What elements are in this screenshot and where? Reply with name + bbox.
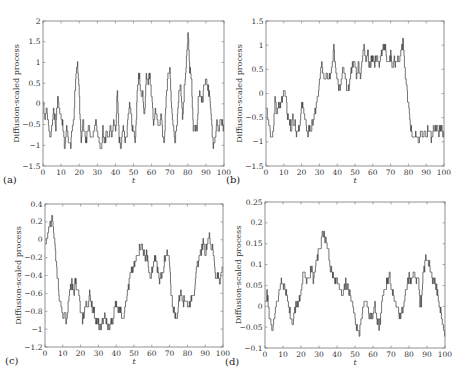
- data-series-line: [266, 38, 444, 142]
- data-series-line: [43, 33, 224, 149]
- y-tick-label: −1: [252, 137, 263, 146]
- x-tick-label: 100: [437, 168, 452, 177]
- x-tick-label: 90: [201, 168, 211, 177]
- y-tick-label: 0: [36, 99, 41, 108]
- y-tick-label: 1.5: [252, 17, 264, 26]
- x-tick-label: 40: [332, 350, 342, 359]
- panel-a: 0102030405060708090100−1.5−1−0.500.511.5…: [3, 17, 231, 186]
- x-tick-label: 30: [315, 168, 325, 177]
- y-tick-label: 0: [38, 235, 43, 244]
- x-tick-label: 90: [421, 168, 431, 177]
- y-tick-label: 0.05: [246, 281, 263, 290]
- x-tick-label: 0: [264, 168, 269, 177]
- x-tick-label: 70: [386, 168, 396, 177]
- y-tick-label: 0.4: [31, 200, 43, 209]
- y-tick-label: 0.15: [246, 239, 263, 248]
- x-tick-label: 40: [111, 168, 121, 177]
- panel-label: (d): [225, 356, 239, 367]
- y-tick-label: 1: [36, 58, 41, 67]
- y-tick-label: 0: [258, 302, 263, 311]
- x-axis-label: t: [353, 358, 357, 367]
- x-tick-label: 60: [147, 168, 157, 177]
- y-tick-label: −1: [29, 141, 40, 150]
- panel-c: 0102030405060708090100−1.2−1−0.8−0.6−0.4…: [5, 200, 230, 367]
- y-tick-label: 1.5: [29, 37, 41, 46]
- x-axis-label: t: [353, 176, 357, 185]
- x-tick-label: 30: [94, 349, 104, 358]
- x-tick-label: 10: [279, 168, 289, 177]
- x-tick-label: 90: [422, 350, 432, 359]
- y-tick-label: −0.6: [24, 289, 42, 298]
- y-tick-label: −1.5: [22, 162, 40, 171]
- x-tick-label: 30: [314, 350, 324, 359]
- x-tick-label: 100: [438, 350, 453, 359]
- x-tick-label: 0: [41, 168, 46, 177]
- x-tick-label: 80: [404, 350, 414, 359]
- x-tick-label: 10: [278, 350, 288, 359]
- x-tick-label: 60: [368, 168, 378, 177]
- y-tick-label: −0.8: [24, 307, 42, 316]
- figure: 0102030405060708090100−1.5−1−0.500.511.5…: [0, 0, 465, 380]
- y-tick-label: 0.2: [31, 217, 43, 226]
- panel-label: (a): [3, 174, 17, 185]
- x-axis-label: t: [132, 176, 136, 185]
- x-tick-label: 80: [404, 168, 414, 177]
- x-tick-label: 70: [386, 350, 396, 359]
- y-tick-label: 0.1: [251, 260, 263, 269]
- axes-frame: [43, 21, 224, 166]
- y-tick-label: −1: [31, 325, 42, 334]
- x-tick-label: 0: [263, 350, 268, 359]
- x-axis-label: t: [132, 357, 136, 366]
- x-tick-label: 20: [76, 349, 86, 358]
- y-tick-label: −0.4: [24, 271, 42, 280]
- y-tick-label: 0.5: [29, 79, 41, 88]
- x-tick-label: 30: [93, 168, 103, 177]
- panel-b: 0102030405060708090100−1.5−1−0.500.511.5…: [226, 17, 451, 186]
- data-series-line: [45, 215, 223, 329]
- x-tick-label: 20: [297, 168, 307, 177]
- x-tick-label: 20: [296, 350, 306, 359]
- y-tick-label: 0.25: [246, 198, 263, 207]
- y-tick-label: 0: [259, 89, 264, 98]
- y-axis-label: Diffusion-scaled process: [235, 44, 244, 143]
- y-axis-label: Diffusion-scaled process: [234, 226, 243, 325]
- x-tick-label: 40: [332, 168, 342, 177]
- x-tick-label: 90: [200, 349, 210, 358]
- x-tick-label: 40: [111, 349, 121, 358]
- y-tick-label: 1: [259, 41, 264, 50]
- x-tick-label: 60: [147, 349, 157, 358]
- panel-label: (c): [5, 355, 19, 366]
- y-tick-label: −1.2: [24, 343, 42, 352]
- x-tick-label: 70: [165, 349, 175, 358]
- x-tick-label: 70: [165, 168, 175, 177]
- x-tick-label: 80: [183, 349, 193, 358]
- y-tick-label: −0.1: [244, 344, 262, 353]
- panel-label: (b): [226, 174, 240, 185]
- y-tick-label: −0.5: [245, 113, 263, 122]
- x-tick-label: 10: [56, 168, 66, 177]
- x-tick-label: 20: [74, 168, 84, 177]
- panel-d: 0102030405060708090100−0.1−0.0500.050.10…: [225, 198, 452, 368]
- data-series-line: [265, 231, 445, 336]
- axes-frame: [45, 204, 223, 347]
- x-tick-label: 0: [43, 349, 48, 358]
- y-tick-label: −0.2: [24, 253, 42, 262]
- x-tick-label: 10: [58, 349, 68, 358]
- y-tick-label: −0.5: [22, 120, 40, 129]
- y-tick-label: 0.5: [252, 65, 264, 74]
- axes-frame: [266, 21, 444, 166]
- y-tick-label: 2: [36, 17, 41, 26]
- x-tick-label: 60: [368, 350, 378, 359]
- x-tick-label: 80: [183, 168, 193, 177]
- y-tick-label: 0.2: [251, 218, 263, 227]
- y-axis-label: Diffusion-scaled process: [14, 226, 23, 325]
- y-tick-label: −1.5: [245, 162, 263, 171]
- axes-frame: [265, 202, 445, 348]
- y-axis-label: Diffusion-scaled process: [12, 44, 21, 143]
